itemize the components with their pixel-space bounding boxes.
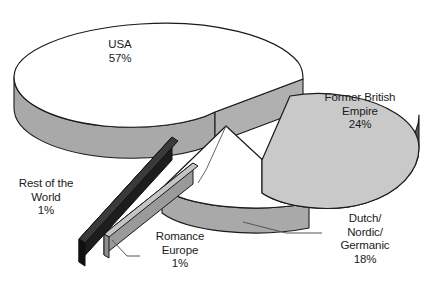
slice-label-romance-europe: Romance Europe 1%: [139, 230, 221, 271]
slice-label-usa: USA 57%: [78, 38, 162, 65]
pie-slice-rest-end-cap: [79, 239, 85, 266]
pie-slice-romance-end-cap: [104, 234, 109, 258]
slice-label-former-british-empire: Former British Empire 24%: [304, 91, 416, 132]
pie-chart: USA 57% Former British Empire 24% Dutch/…: [0, 0, 436, 295]
slice-label-dutch-nordic-germanic: Dutch/ Nordic/ Germanic 18%: [326, 212, 404, 266]
slice-label-rest-of-the-world: Rest of the World 1%: [4, 177, 88, 218]
